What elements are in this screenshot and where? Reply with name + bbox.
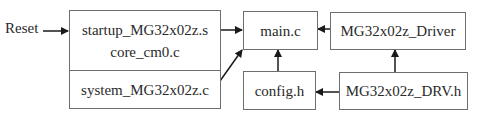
core-file-label: core_cm0.c [110, 41, 180, 63]
drv-h-node: MG32x02z_DRV.h [339, 72, 468, 110]
startup-file-label: startup_MG32x02z.s [82, 19, 208, 41]
system-file-label: system_MG32x02z.c [81, 79, 209, 101]
main-file-label: main.c [260, 20, 300, 42]
reset-label: Reset [5, 20, 38, 37]
arrow-system-to-main [220, 50, 242, 81]
main-node: main.c [243, 11, 318, 50]
drv-h-label: MG32x02z_DRV.h [346, 80, 462, 102]
system-node: system_MG32x02z.c [69, 70, 221, 109]
driver-node: MG32x02z_Driver [330, 12, 466, 50]
config-node: config.h [243, 71, 316, 110]
driver-label: MG32x02z_Driver [341, 20, 456, 42]
startup-node: startup_MG32x02z.s core_cm0.c [69, 10, 221, 71]
config-file-label: config.h [255, 80, 305, 102]
